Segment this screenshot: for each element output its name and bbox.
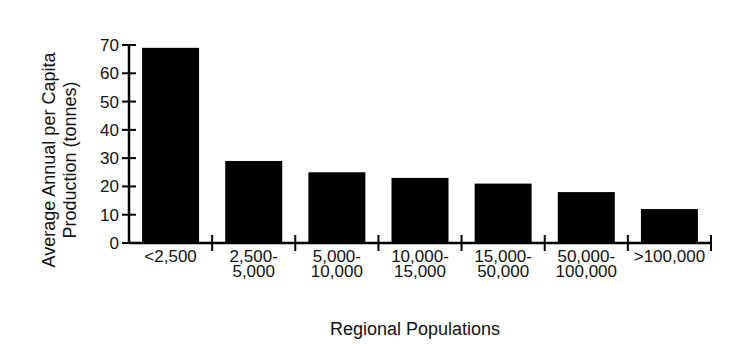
y-tick-label: 30 (100, 149, 119, 168)
y-tick-label: 60 (100, 64, 119, 83)
bar (142, 48, 199, 243)
y-tick-label: 20 (100, 177, 119, 196)
bars (142, 48, 698, 243)
x-tick-label: >100,000 (634, 247, 705, 266)
x-tick-label: 5,000 (232, 262, 275, 281)
x-tick-label: 15,000 (394, 262, 446, 281)
bar (558, 192, 615, 243)
y-tick-label: 70 (100, 36, 119, 55)
x-tick-label: <2,500 (144, 247, 196, 266)
x-tick-label: 50,000 (477, 262, 529, 281)
y-tick-label: 10 (100, 206, 119, 225)
bar (392, 178, 449, 243)
y-tick-label: 40 (100, 121, 119, 140)
x-axis: <2,5002,500-5,0005,000-10,00010,000-15,0… (129, 235, 711, 281)
x-tick-label: 10,000 (311, 262, 363, 281)
bar (475, 184, 532, 243)
y-tick-label: 50 (100, 93, 119, 112)
x-tick-label: 100,000 (556, 262, 617, 281)
bar-chart: Average Annual per CapitaProduction (ton… (0, 0, 749, 344)
bar (641, 209, 698, 243)
y-axis-title: Average Annual per CapitaProduction (ton… (39, 52, 80, 268)
y-axis-title-line: Production (tonnes) (60, 81, 80, 238)
bar (225, 161, 282, 243)
y-axis: 010203040506070 (100, 36, 136, 253)
bar (308, 172, 365, 243)
y-axis-title-line: Average Annual per Capita (39, 52, 59, 268)
y-tick-label: 0 (110, 234, 119, 253)
x-axis-title: Regional Populations (330, 319, 500, 339)
